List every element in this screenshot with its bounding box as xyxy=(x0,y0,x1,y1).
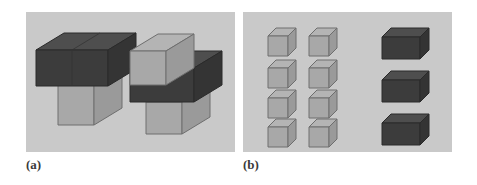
panel-a-label: (a) xyxy=(26,158,41,171)
cube-left-face xyxy=(130,51,166,85)
cube-left-face xyxy=(58,85,94,125)
figure-root: (a) xyxy=(0,0,477,185)
light-cube xyxy=(309,119,337,147)
panel-a xyxy=(26,12,235,152)
light-cube xyxy=(268,28,296,56)
dark-block-column xyxy=(382,28,429,145)
light-cube xyxy=(268,119,296,147)
panel-b-label: (b) xyxy=(243,158,259,171)
light-cube xyxy=(268,60,296,88)
dark-block xyxy=(382,114,429,145)
panel-b-canvas xyxy=(243,12,452,152)
light-cube xyxy=(268,90,296,118)
panel-b xyxy=(243,12,452,152)
dark-block-top xyxy=(36,33,136,86)
panel-a-canvas xyxy=(26,12,235,152)
cube-left-face xyxy=(146,102,182,134)
light-cube xyxy=(309,28,337,56)
dark-block xyxy=(382,71,429,102)
dark-block xyxy=(382,28,429,59)
light-cube xyxy=(309,90,337,118)
light-cube xyxy=(309,60,337,88)
